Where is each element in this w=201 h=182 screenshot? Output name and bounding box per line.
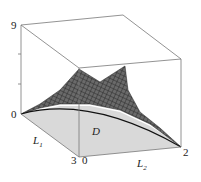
l2-end-label: 2 — [183, 147, 189, 158]
region-d-label: D — [92, 126, 100, 137]
surface-plot — [0, 0, 201, 182]
z-min-label: 0 — [11, 109, 17, 120]
l1-end-label: 3 — [71, 155, 77, 166]
z-max-label: 9 — [11, 20, 17, 31]
l1-axis-label: L1 — [33, 135, 43, 149]
l2-start-label: 0 — [82, 155, 88, 166]
l2-axis-label: L2 — [137, 158, 147, 172]
